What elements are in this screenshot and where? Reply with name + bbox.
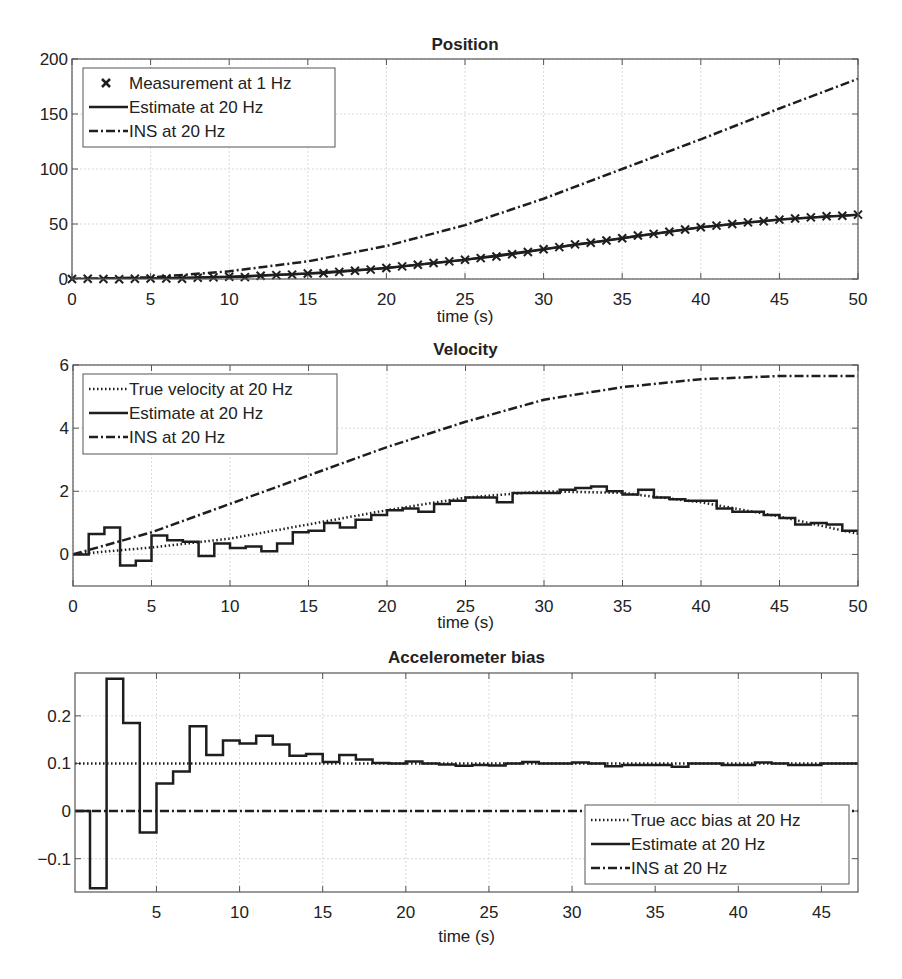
- x-tick-label: 40: [692, 597, 711, 616]
- x-tick-label: 5: [146, 290, 155, 309]
- figure: 05101520253035404550050100150200 Positio…: [0, 0, 902, 979]
- grid: 51015202530354045−0.100.10.2: [37, 673, 858, 922]
- x-tick-label: 45: [770, 597, 789, 616]
- x-tick-label: 25: [479, 903, 498, 922]
- x-tick-label: 35: [613, 290, 632, 309]
- x-tick-label: 30: [534, 290, 553, 309]
- velocity-title: Velocity: [433, 340, 498, 359]
- legend-label: Estimate at 20 Hz: [129, 98, 263, 117]
- accelerometer-bias-title: Accelerometer bias: [388, 648, 545, 667]
- x-tick-label: 0: [67, 290, 76, 309]
- legend[interactable]: True acc bias at 20 HzEstimate at 20 HzI…: [585, 805, 849, 884]
- y-tick-label: 200: [40, 50, 68, 69]
- x-tick-label: 15: [299, 597, 318, 616]
- legend-label: True acc bias at 20 Hz: [631, 811, 800, 830]
- legend-label: Estimate at 20 Hz: [631, 835, 765, 854]
- y-tick-label: 50: [49, 215, 68, 234]
- legend-label: Measurement at 1 Hz: [129, 74, 292, 93]
- y-tick-label: 4: [60, 419, 69, 438]
- x-tick-label: 45: [812, 903, 831, 922]
- y-tick-label: 100: [40, 160, 68, 179]
- x-tick-label: 10: [220, 290, 239, 309]
- y-tick-label: 150: [40, 105, 68, 124]
- velocity-plot: 051015202530354045500246 Velocity time (…: [60, 340, 868, 632]
- x-tick-label: 40: [691, 290, 710, 309]
- y-tick-label: 2: [60, 482, 69, 501]
- x-tick-label: 10: [221, 597, 240, 616]
- position-title: Position: [431, 35, 498, 54]
- x-tick-label: 20: [378, 597, 397, 616]
- x-tick-label: 15: [313, 903, 332, 922]
- position-plot: 05101520253035404550050100150200 Positio…: [40, 35, 868, 326]
- x-tick-label: 30: [563, 903, 582, 922]
- y-tick-label: 0.1: [47, 754, 71, 773]
- x-tick-label: 5: [152, 903, 161, 922]
- legend-item: Measurement at 1 Hz: [102, 74, 292, 93]
- x-tick-label: 30: [535, 597, 554, 616]
- y-tick-label: 0.2: [47, 707, 71, 726]
- y-tick-label: 0: [62, 802, 71, 821]
- x-tick-label: 10: [230, 903, 249, 922]
- x-tick-label: 20: [396, 903, 415, 922]
- y-tick-label: −0.1: [37, 850, 71, 869]
- legend[interactable]: Measurement at 1 HzEstimate at 20 HzINS …: [83, 68, 335, 147]
- y-tick-label: 0: [59, 270, 68, 289]
- y-tick-label: 6: [60, 356, 69, 375]
- accelerometer-bias-plot: 51015202530354045−0.100.10.2 Acceleromet…: [37, 648, 858, 946]
- legend-label: INS at 20 Hz: [129, 428, 225, 447]
- x-tick-label: 35: [613, 597, 632, 616]
- x-tick-label: 0: [68, 597, 77, 616]
- y-tick-label: 0: [60, 545, 69, 564]
- legend-label: INS at 20 Hz: [129, 122, 225, 141]
- legend-label: Estimate at 20 Hz: [129, 404, 263, 423]
- x-tick-label: 5: [147, 597, 156, 616]
- x-tick-label: 40: [729, 903, 748, 922]
- x-tick-label: 35: [646, 903, 665, 922]
- position-xlabel: time (s): [437, 307, 494, 326]
- legend-label: True velocity at 20 Hz: [129, 380, 293, 399]
- legend-label: INS at 20 Hz: [631, 859, 727, 878]
- legend[interactable]: True velocity at 20 HzEstimate at 20 HzI…: [83, 374, 337, 454]
- x-tick-label: 15: [298, 290, 317, 309]
- accelerometer-bias-xlabel: time (s): [438, 927, 495, 946]
- x-tick-label: 45: [770, 290, 789, 309]
- velocity-xlabel: time (s): [437, 613, 494, 632]
- x-tick-label: 20: [377, 290, 396, 309]
- x-tick-label: 50: [849, 290, 868, 309]
- x-tick-label: 50: [849, 597, 868, 616]
